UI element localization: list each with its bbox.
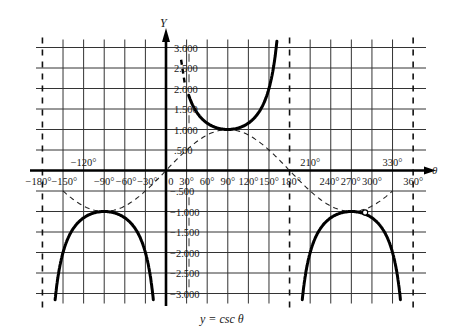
x-tick-label: 300° <box>362 176 382 187</box>
y-tick-label: −.500 <box>170 186 194 197</box>
y-axis-arrow-icon <box>162 28 170 42</box>
x-tick-label: 360° <box>403 176 423 187</box>
y-tick-label: −1.500 <box>170 227 200 238</box>
y-tick-label: .500 <box>174 145 192 156</box>
y-tick-label: 1.000 <box>174 125 198 136</box>
csc-branch <box>189 41 277 129</box>
y-tick-label: −3.000 <box>170 289 200 300</box>
x-tick-label: 90° <box>220 176 235 187</box>
y-tick-label: 2.000 <box>174 84 198 95</box>
x-tick-label: −120° <box>71 157 97 168</box>
x-tick-label: 180° <box>281 176 301 187</box>
chart-caption: y = csc θ <box>199 312 244 326</box>
x-tick-label: −90° <box>94 176 115 187</box>
csc-graph: −180°−150°−90°−60°−30°030°60°90°120°150°… <box>0 0 450 336</box>
x-tick-label: −180° <box>25 176 51 187</box>
x-axis-label: θ <box>432 164 438 176</box>
y-tick-label: −1.000 <box>170 207 200 218</box>
y-tick-label: 3.000 <box>174 43 198 54</box>
x-tick-label: 210° <box>300 157 320 168</box>
x-tick-label: 330° <box>383 157 403 168</box>
x-tick-label: 270° <box>341 176 361 187</box>
y-axis-label: Y <box>160 16 168 30</box>
x-tick-label: 30° <box>179 176 194 187</box>
y-tick-label: −2.000 <box>170 248 200 259</box>
x-tick-label: 150° <box>259 176 279 187</box>
y-tick-label: 2.500 <box>174 63 198 74</box>
point-marker-icon <box>362 210 367 215</box>
x-tick-label: −60° <box>116 176 137 187</box>
y-tick-label: 1.500 <box>174 104 198 115</box>
x-tick-label: 60° <box>200 176 215 187</box>
x-tick-label: −150° <box>51 176 77 187</box>
x-tick-label: 240° <box>319 176 339 187</box>
y-tick-label: −2.500 <box>170 268 200 279</box>
x-tick-label: 0 <box>168 176 173 187</box>
x-tick-label: 120° <box>238 176 258 187</box>
x-tick-label: −30° <box>137 176 158 187</box>
